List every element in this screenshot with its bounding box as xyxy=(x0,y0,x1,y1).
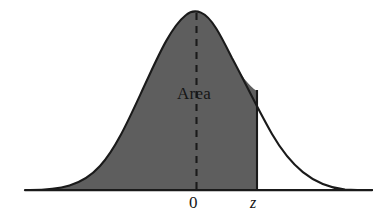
normal-distribution-figure: Area 0 z xyxy=(0,0,390,221)
distribution-curve-graphic xyxy=(0,0,390,221)
area-label-text: Area xyxy=(177,84,211,103)
mean-tick-label: 0 xyxy=(189,194,198,211)
z-tick-label: z xyxy=(250,195,256,211)
area-label: Area xyxy=(0,85,390,102)
